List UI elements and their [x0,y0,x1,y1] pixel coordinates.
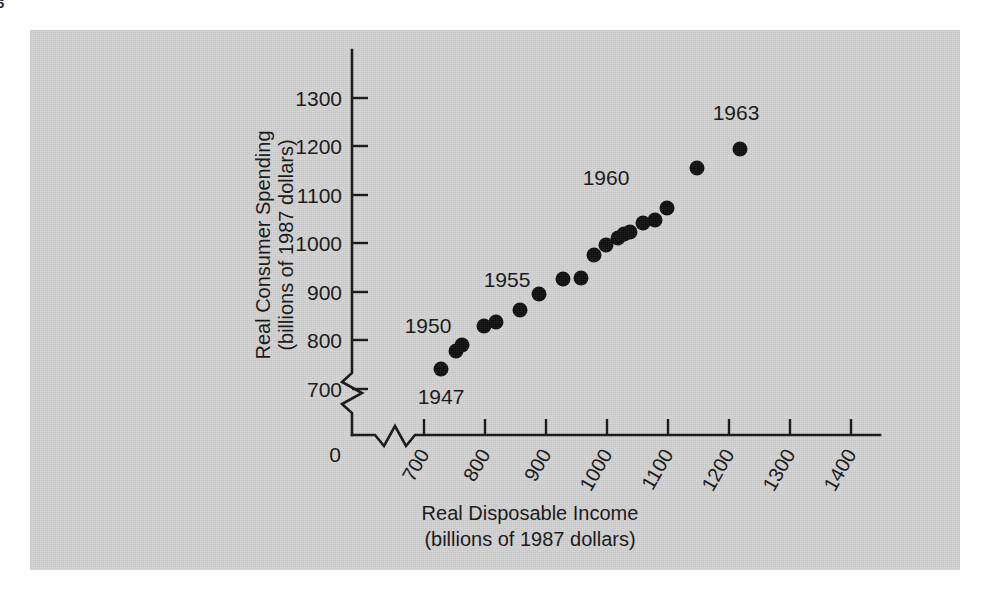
x-tick-label: 900 [520,445,556,485]
scatter-plot: 1300 1200 1100 1000 900 800 700 700 800 … [30,30,960,570]
chart-panel: 1300 1200 1100 1000 900 800 700 700 800 … [30,30,960,570]
y-tick-label: 900 [307,281,342,304]
x-tick-label: 1300 [758,445,799,495]
year-annotations: 1947 1950 1955 1960 1963 [405,101,760,408]
y-tick-label: 800 [307,329,342,352]
data-point [660,201,675,216]
y-axis-title: Real Consumer Spending (billions of 1987… [252,130,297,359]
annotation-1955: 1955 [484,268,531,291]
origin-label: 0 [329,443,341,466]
y-axis-ticks [352,98,368,389]
data-point [532,287,547,302]
x-axis-line [352,426,880,446]
data-point [648,213,663,228]
x-axis-ticks [424,419,851,435]
data-point [434,362,449,377]
annotation-1947: 1947 [418,385,465,408]
y-tick-label: 1100 [297,184,342,207]
y-axis-tick-labels: 1300 1200 1100 1000 900 800 700 [295,87,342,401]
figure-number: 6 [0,0,4,11]
x-axis-title-line1: Real Disposable Income [422,502,639,524]
x-tick-label: 700 [398,445,434,485]
x-tick-label: 1000 [575,445,616,495]
data-point [489,315,504,330]
y-axis-title-line2: (billions of 1987 dollars) [275,139,297,350]
x-tick-label: 800 [459,445,495,485]
data-point [733,142,748,157]
x-axis-tick-labels: 700 800 900 1000 1100 1200 1300 1400 [398,445,861,495]
annotation-1960: 1960 [583,166,630,189]
data-point [455,338,470,353]
x-axis-title-line2: (billions of 1987 dollars) [424,528,635,550]
x-tick-label: 1400 [819,445,860,495]
data-point [690,161,705,176]
y-tick-label: 1200 [295,135,342,158]
data-point [574,271,589,286]
x-tick-label: 1200 [697,445,738,495]
x-axis-title: Real Disposable Income (billions of 1987… [422,502,639,550]
annotation-1950: 1950 [405,314,452,337]
y-tick-label: 700 [307,378,342,401]
data-point [556,272,571,287]
data-point [587,248,602,263]
data-point [513,303,528,318]
y-tick-label: 1000 [295,232,342,255]
data-point [623,225,638,240]
y-tick-label: 1300 [295,87,342,110]
y-axis-title-line1: Real Consumer Spending [252,130,274,359]
x-tick-label: 1100 [637,445,678,493]
annotation-1963: 1963 [713,101,760,124]
